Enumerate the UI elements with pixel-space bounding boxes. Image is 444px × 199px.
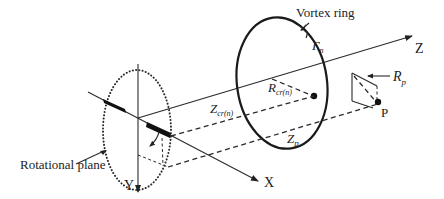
- rcr-label: Rcr(n): [267, 80, 292, 97]
- y-axis-label: Y: [124, 178, 134, 193]
- rp-bottom: [352, 101, 373, 108]
- rp-top: [352, 73, 377, 86]
- zp-dashed-line: [168, 104, 378, 167]
- z-axis: [138, 36, 412, 118]
- x-axis-label: X: [264, 175, 274, 190]
- rp-label: Rp: [392, 69, 407, 87]
- vortex-ring-diagram: Vortex ring Γn Z X Y Rp Rcr(n) Zcr(n) Zp…: [0, 0, 444, 199]
- z-axis-label: Z: [415, 41, 424, 56]
- rotation-direction-arrow: [150, 132, 159, 146]
- rotational-plane-label: Rotational plane: [20, 157, 106, 172]
- gamma-label: Γn: [311, 38, 323, 55]
- zcr-label: Zcr(n): [210, 101, 234, 118]
- zp-label: Zp: [287, 131, 299, 148]
- point-p-label: P: [381, 105, 388, 120]
- blade-lower: [146, 122, 171, 138]
- plane-connector-2: [162, 138, 163, 166]
- vortex-ring-label: Vortex ring: [296, 5, 355, 20]
